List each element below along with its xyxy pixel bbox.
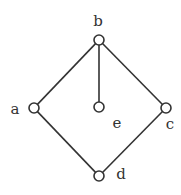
node-label-b: b <box>93 12 103 30</box>
node-b <box>94 35 104 45</box>
hasse-diagram: baecd <box>0 0 181 195</box>
edge-a-d <box>37 112 95 173</box>
nodes <box>29 35 171 181</box>
node-a <box>29 103 39 113</box>
node-label-c: c <box>166 115 174 133</box>
edge-b-c <box>103 44 163 105</box>
node-label-a: a <box>11 100 20 118</box>
edge-c-d <box>103 112 163 173</box>
edge-b-a <box>37 44 95 105</box>
node-e <box>94 102 104 112</box>
node-label-e: e <box>113 114 122 132</box>
labels: baecd <box>11 12 175 183</box>
node-label-d: d <box>116 165 126 183</box>
node-d <box>94 171 104 181</box>
node-c <box>161 103 171 113</box>
